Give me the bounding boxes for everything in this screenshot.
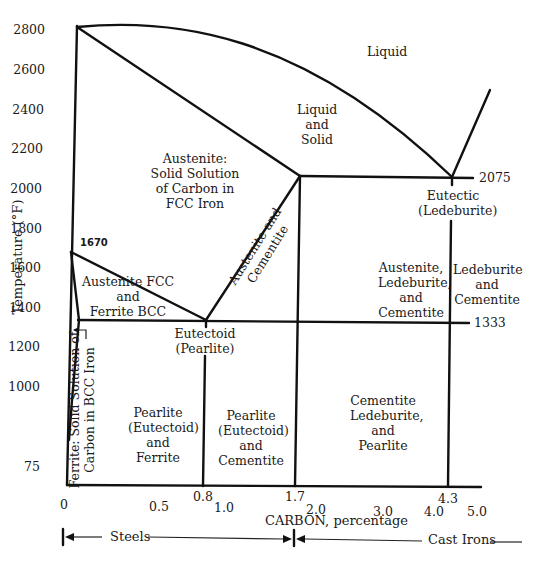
region-cementite-ledeburite-pearlite: Cementite Ledeburite, and Pearlite <box>350 393 416 453</box>
y-tick-2200: 2200 <box>3 142 43 156</box>
cast-irons-range-label: Cast Irons <box>428 533 496 547</box>
carbon-4-3-line <box>448 221 451 486</box>
temp-label-1670: 1670 <box>80 236 108 250</box>
steels-range-label: Steels <box>110 530 150 544</box>
x-axis-baseline <box>67 485 481 487</box>
y-tick-75: 75 <box>0 460 40 474</box>
region-ferrite: Ferrite: Solid Solution of Carbon in BCC… <box>67 320 97 500</box>
region-austenite-ferrite: Austenite FCC and Ferrite BCC <box>78 274 178 319</box>
region-austenite: Austenite: Solid Solution of Carbon in F… <box>135 151 255 211</box>
steels-right-leader <box>148 537 284 539</box>
liquidus-right-line <box>452 90 490 177</box>
y-tick-2800: 2800 <box>5 23 45 37</box>
steels-left-arrow <box>65 533 74 541</box>
region-austenite-ledeburite-cementite: Austenite, Ledeburite, and Cementite <box>378 260 444 320</box>
x-tick-4-3: 4.3 <box>438 492 458 506</box>
region-liquid-and-solid: Liquid and Solid <box>297 102 337 147</box>
region-liquid: Liquid <box>367 44 407 59</box>
y-tick-1600: 1600 <box>1 261 41 275</box>
x-tick-0-8: 0.8 <box>193 490 213 504</box>
region-eutectic: Eutectic (Ledeburite) <box>418 188 488 218</box>
eutectoid-line-1333 <box>78 320 469 323</box>
y-tick-1800: 1800 <box>2 222 42 236</box>
y-tick-1400: 1400 <box>1 301 41 315</box>
y-tick-2400: 2400 <box>4 103 44 117</box>
x-tick-4-0: 4.0 <box>424 505 444 519</box>
x-tick-5-0: 5.0 <box>467 505 487 519</box>
cast-irons-left-arrow <box>296 535 305 543</box>
y-tick-1200: 1200 <box>0 340 40 354</box>
cast-irons-left-leader <box>305 539 422 541</box>
region-eutectoid: Eutectoid (Pearlite) <box>170 326 240 356</box>
x-axis-label: CARBON, percentage <box>265 514 408 528</box>
y-tick-1000: 1000 <box>0 380 40 394</box>
x-tick-1-0: 1.0 <box>214 501 234 515</box>
temp-label-1333: 1333 <box>474 316 506 330</box>
y-tick-2000: 2000 <box>2 182 42 196</box>
steels-right-arrow <box>283 535 292 543</box>
x-tick-0-5: 0.5 <box>149 500 169 514</box>
region-ledeburite-cementite: Ledeburite and Cementite <box>453 262 521 307</box>
region-pearlite-cementite: Pearlite (Eutectoid) and Cementite <box>218 408 284 468</box>
y-tick-2600: 2600 <box>5 63 45 77</box>
x-tick-0: 0 <box>60 498 68 512</box>
carbon-0-8-line <box>203 356 205 486</box>
eutectic-line-2075 <box>300 176 473 178</box>
region-pearlite-ferrite: Pearlite (Eutectoid) and Ferrite <box>128 405 188 465</box>
temp-label-2075: 2075 <box>479 171 511 185</box>
x-tick-1-7: 1.7 <box>285 490 305 504</box>
